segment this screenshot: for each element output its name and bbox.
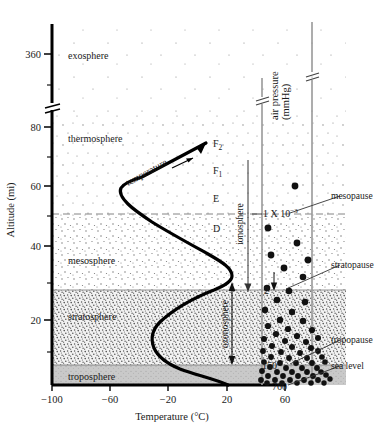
boundary-label-tropopause: tropopause xyxy=(331,335,373,345)
atmosphere-diagram: 360 80 60 40 20 Altitude (mi) −100 −60 −… xyxy=(0,0,390,430)
ozonosphere-label: ozonosphere xyxy=(220,300,230,348)
pressure-axis-title-line1: air pressure xyxy=(269,71,280,120)
y-axis: 360 80 60 40 20 Altitude (mi) xyxy=(5,24,60,385)
y-tick-label-20: 20 xyxy=(31,315,42,326)
boundary-label-stratopause: stratopause xyxy=(331,260,374,270)
iono-sublayer-d: D xyxy=(213,223,220,234)
layer-bands xyxy=(52,24,346,385)
x-axis-title: Temperature (°C) xyxy=(135,411,209,423)
y-tick-label-60: 60 xyxy=(31,181,42,192)
x-tick-label-20: 20 xyxy=(222,394,233,405)
boundary-label-sea-level: sea level xyxy=(331,361,364,371)
pressure-value-760: 760 xyxy=(272,381,287,392)
pressure-value-150: 150 xyxy=(262,360,277,371)
y-tick-label-40: 40 xyxy=(31,241,42,252)
layer-label-mesosphere: mesosphere xyxy=(68,255,116,266)
ionosphere-label: ionosphere xyxy=(235,203,245,245)
pressure-axis-title-line2: (mmHg) xyxy=(280,83,292,120)
x-tick-label-m100: −100 xyxy=(41,394,63,405)
boundary-label-mesopause: mesopause xyxy=(331,191,373,201)
x-tick-label-60: 60 xyxy=(280,394,291,405)
figure-canvas: 360 80 60 40 20 Altitude (mi) −100 −60 −… xyxy=(0,0,390,430)
x-tick-label-m60: −60 xyxy=(102,394,118,405)
y-tick-label-360: 360 xyxy=(25,49,41,60)
pressure-value-2: 2 xyxy=(264,285,269,296)
layer-label-exosphere: exosphere xyxy=(68,50,109,61)
iono-sublayer-e: E xyxy=(213,193,219,204)
y-axis-title: Altitude (mi) xyxy=(5,182,17,238)
layer-label-thermosphere: thermosphere xyxy=(68,133,123,144)
x-axis: −100 −60 −20 20 60 Temperature (°C) xyxy=(41,385,290,423)
layer-label-troposphere: troposphere xyxy=(68,371,116,382)
y-tick-label-80: 80 xyxy=(31,122,42,133)
x-tick-label-m20: −20 xyxy=(160,394,176,405)
band-thermosphere xyxy=(52,114,346,214)
band-exosphere xyxy=(52,24,346,114)
layer-label-stratosphere: stratosphere xyxy=(68,311,117,322)
